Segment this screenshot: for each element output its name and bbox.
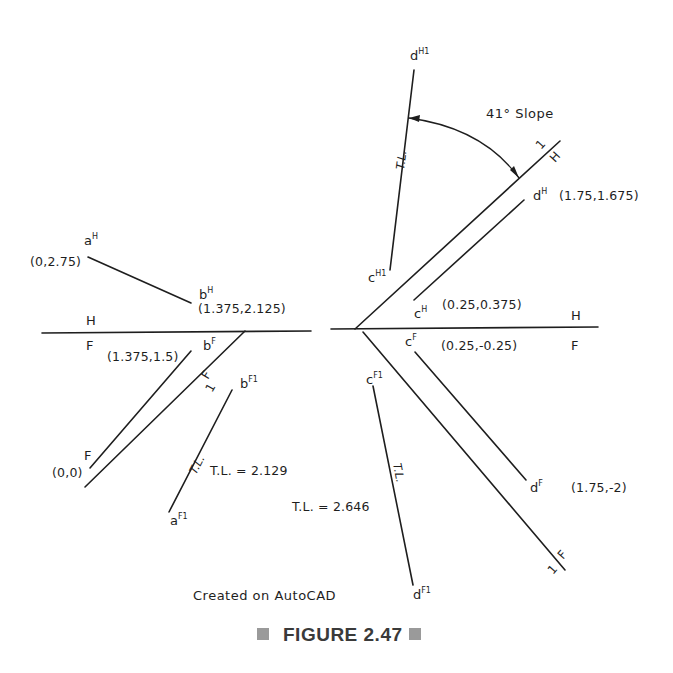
- label-a-f1: aF1: [170, 512, 188, 528]
- label-d-h: dH: [533, 187, 547, 203]
- line-ch-dh: [414, 200, 524, 300]
- slope-angle-arc: [409, 118, 519, 178]
- line-cf-df: [415, 352, 526, 480]
- line-cf1-df1: [373, 386, 413, 585]
- label-d-f: dF: [530, 479, 543, 495]
- true-length-tag-upper: T.L.: [393, 149, 409, 170]
- left-fold-line-hf: [42, 331, 311, 333]
- coord-a-h: (0,2.75): [30, 254, 81, 269]
- label-c-f: cF: [405, 333, 417, 349]
- coord-d-f: (1.75,-2): [571, 480, 627, 495]
- coord-c-h: (0.25,0.375): [442, 297, 522, 312]
- line-af-bf: [90, 351, 191, 468]
- label-b-h: bH: [199, 286, 213, 302]
- right-fold-label-f: F: [571, 338, 578, 353]
- left-fold-label-f: F: [86, 338, 93, 353]
- coord-b-h: (1.375,2.125): [198, 301, 286, 316]
- right-fold-label-1: 1: [545, 562, 561, 577]
- right-fold-label-h: H: [571, 308, 581, 323]
- true-length-value-left: T.L. = 2.129: [209, 463, 288, 478]
- left-fold-label-1: 1: [202, 381, 218, 395]
- left-fold-label-f: F: [198, 368, 214, 381]
- descriptive-geometry-drawing: H F aH (0,2.75) bH (1.375,2.125) bF (1.3…: [0, 0, 673, 673]
- slope-label: 41° Slope: [486, 106, 554, 121]
- autocad-note: Created on AutoCAD: [193, 588, 336, 603]
- coord-a-f: (0,0): [52, 465, 83, 480]
- right-fold-line-f1: [363, 332, 565, 570]
- figure-2-47: H F aH (0,2.75) bH (1.375,2.125) bF (1.3…: [0, 0, 673, 673]
- caption-right-square-icon: [409, 628, 421, 640]
- label-b-f1: bF1: [240, 375, 258, 391]
- label-c-h1: cH1: [368, 269, 386, 285]
- label-a-h: aH: [84, 232, 98, 248]
- line-ah-bh: [88, 257, 191, 303]
- label-c-h: cH: [414, 305, 427, 321]
- label-b-f: bF: [203, 337, 216, 353]
- label-d-f1: dF1: [413, 586, 431, 602]
- label-a-f: F: [84, 448, 91, 463]
- coord-b-f: (1.375,1.5): [107, 349, 179, 364]
- label-c-f1: cF1: [366, 371, 383, 387]
- left-fold-label-h: H: [86, 313, 96, 328]
- line-af1-bf1: [169, 390, 232, 512]
- coord-c-f: (0.25,-0.25): [441, 338, 517, 353]
- label-d-h1: dH1: [410, 47, 429, 63]
- caption-left-square-icon: [257, 628, 269, 640]
- right-fold-line-hf: [331, 327, 598, 329]
- figure-caption: FIGURE 2.47: [283, 624, 403, 645]
- arc-arrow-start-icon: [409, 115, 420, 122]
- right-fold-label-1: 1: [533, 137, 549, 152]
- true-length-value-right: T.L. = 2.646: [291, 499, 370, 514]
- coord-d-h: (1.75,1.675): [559, 188, 639, 203]
